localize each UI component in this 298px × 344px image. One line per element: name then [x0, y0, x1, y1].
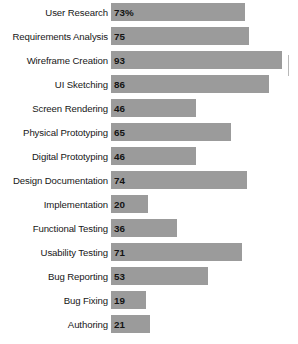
bar-category-label: Bug Fixing: [0, 295, 111, 306]
bar: 75: [111, 27, 249, 45]
bar-rows-container: User Research73%Requirements Analysis75W…: [0, 0, 298, 336]
bar-value-label: 53: [111, 271, 125, 282]
bar-category-label: Screen Rendering: [0, 103, 111, 114]
bar-track: 93: [111, 48, 298, 72]
bar: 53: [111, 267, 208, 285]
bar-category-label: UI Sketching: [0, 79, 111, 90]
bar-row: Design Documentation74: [0, 168, 298, 192]
bar: 73%: [111, 3, 245, 21]
bar-row: Authoring21: [0, 312, 298, 336]
bar-track: 46: [111, 96, 298, 120]
bar-row: Functional Testing36: [0, 216, 298, 240]
bar-row: Requirements Analysis75: [0, 24, 298, 48]
bar-track: 53: [111, 264, 298, 288]
bar-value-label: 46: [111, 103, 125, 114]
bar-category-label: Functional Testing: [0, 223, 111, 234]
bar-row: User Research73%: [0, 0, 298, 24]
axis-tick-mark: [288, 55, 289, 76]
bar-value-label: 93: [111, 55, 125, 66]
bar-row: Usability Testing71: [0, 240, 298, 264]
bar-category-label: Authoring: [0, 319, 111, 330]
bar: 19: [111, 291, 146, 309]
bar-category-label: Digital Prototyping: [0, 151, 111, 162]
bar-track: 73%: [111, 0, 298, 24]
bar-value-label: 74: [111, 175, 125, 186]
bar: 65: [111, 123, 231, 141]
bar-value-label: 36: [111, 223, 125, 234]
bar-value-label: 65: [111, 127, 125, 138]
bar-category-label: Bug Reporting: [0, 271, 111, 282]
bar: 20: [111, 195, 148, 213]
bar: 74: [111, 171, 247, 189]
bar-value-label: 75: [111, 31, 125, 42]
bar-value-label: 73%: [111, 7, 134, 18]
bar-track: 36: [111, 216, 298, 240]
horizontal-bar-chart: User Research73%Requirements Analysis75W…: [0, 0, 298, 344]
bar-track: 46: [111, 144, 298, 168]
bar: 36: [111, 219, 177, 237]
bar-category-label: Design Documentation: [0, 175, 111, 186]
bar-value-label: 86: [111, 79, 125, 90]
bar-track: 19: [111, 288, 298, 312]
bar: 71: [111, 243, 242, 261]
bar-row: Bug Reporting53: [0, 264, 298, 288]
bar: 46: [111, 99, 196, 117]
bar-row: UI Sketching86: [0, 72, 298, 96]
bar-value-label: 46: [111, 151, 125, 162]
bar: 21: [111, 315, 150, 333]
bar-value-label: 71: [111, 247, 125, 258]
bar-category-label: User Research: [0, 7, 111, 18]
bar-track: 21: [111, 312, 298, 336]
bar-category-label: Implementation: [0, 199, 111, 210]
bar-row: Digital Prototyping46: [0, 144, 298, 168]
bar-track: 65: [111, 120, 298, 144]
bar-track: 86: [111, 72, 298, 96]
bar: 46: [111, 147, 196, 165]
bar-category-label: Requirements Analysis: [0, 31, 111, 42]
bar-row: Physical Prototyping65: [0, 120, 298, 144]
bar-track: 75: [111, 24, 298, 48]
bar-track: 71: [111, 240, 298, 264]
bar-value-label: 21: [111, 319, 125, 330]
bar-row: Screen Rendering46: [0, 96, 298, 120]
bar-value-label: 19: [111, 295, 125, 306]
bar-category-label: Usability Testing: [0, 247, 111, 258]
bar-category-label: Physical Prototyping: [0, 127, 111, 138]
bar: 93: [111, 51, 282, 69]
bar-row: Wireframe Creation93: [0, 48, 298, 72]
bar-category-label: Wireframe Creation: [0, 55, 111, 66]
bar-row: Bug Fixing19: [0, 288, 298, 312]
bar-track: 74: [111, 168, 298, 192]
bar-track: 20: [111, 192, 298, 216]
bar: 86: [111, 75, 269, 93]
bar-row: Implementation20: [0, 192, 298, 216]
bar-value-label: 20: [111, 199, 125, 210]
